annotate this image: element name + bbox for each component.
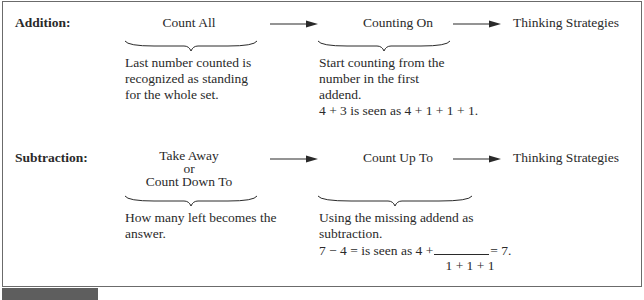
arrow-icon [270, 19, 318, 29]
arrow-icon [270, 154, 318, 164]
brace-icon [124, 195, 258, 207]
addition-counting-on-description: Start counting from the number in the fi… [319, 55, 478, 119]
subtraction-stage-thinking-strategies: Thinking Strategies [513, 150, 619, 165]
subtraction-stage-count-up-to: Count Up To [334, 150, 462, 165]
brace-icon [317, 195, 473, 207]
addition-count-all-description: Last number counted is recognized as sta… [125, 55, 251, 103]
missing-addend-equation: 7 − 4 = is seen as 4 += 7. [319, 242, 511, 259]
addition-stage-count-all: Count All [125, 15, 253, 30]
addition-stage-counting-on: Counting On [334, 15, 462, 30]
subtraction-take-away-description: How many left becomes the answer. [125, 210, 276, 242]
arrow-icon [453, 19, 501, 29]
addition-label: Addition: [15, 15, 71, 30]
blank-line [434, 242, 489, 255]
brace-icon [317, 40, 451, 52]
subtraction-stage-take-away: Take Away or Count Down To [125, 149, 253, 188]
addition-stage-thinking-strategies: Thinking Strategies [513, 15, 619, 30]
equation-under-blank: 1 + 1 + 1 [442, 258, 498, 273]
brace-icon [124, 40, 258, 52]
subtraction-count-up-description: Using the missing addend as subtraction.… [319, 210, 511, 259]
arrow-icon [453, 154, 501, 164]
figure-tab [2, 288, 98, 300]
subtraction-label: Subtraction: [15, 150, 88, 165]
